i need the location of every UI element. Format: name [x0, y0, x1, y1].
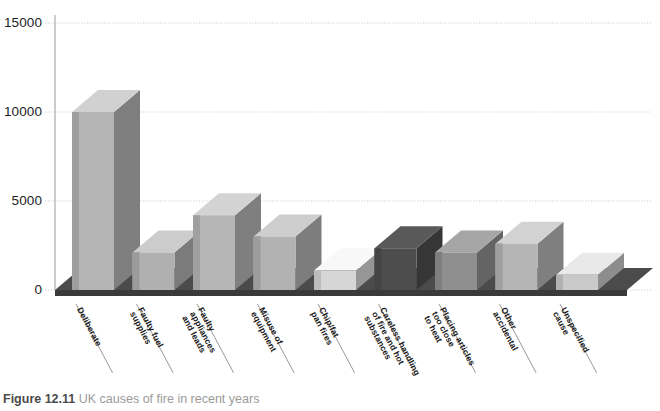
y-tick-15000: 15000	[0, 15, 42, 30]
bar-0	[72, 90, 140, 290]
y-tick-0: 0	[0, 282, 42, 297]
caption-text: UK causes of fire in recent years	[79, 392, 260, 406]
bar-2	[193, 193, 261, 290]
y-tick-10000: 10000	[0, 104, 42, 119]
figure-number: Figure 12.11	[3, 392, 75, 406]
y-tick-5000: 5000	[0, 193, 42, 208]
figure-caption: Figure 12.11 UK causes of fire in recent…	[3, 392, 259, 406]
figure-3d-bar-chart: 050001000015000 DeliberateFaulty fuel su…	[0, 0, 660, 411]
